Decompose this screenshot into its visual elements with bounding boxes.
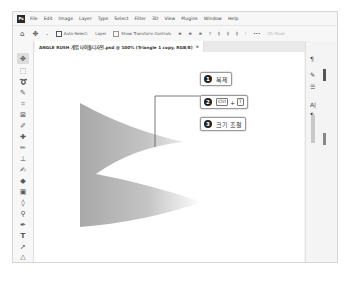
move-icon[interactable]: ✥	[32, 30, 38, 38]
home-icon[interactable]: ⌂	[20, 30, 24, 38]
document-tab-bar: ANGLE RUSH 게임 타이틀디자인.psd @ 100% (Triangl…	[13, 41, 337, 52]
brush-tool-icon[interactable]: ✏	[17, 142, 29, 153]
photoshop-logo: Ps	[17, 15, 25, 23]
eyedropper-tool-icon[interactable]: ✐	[17, 120, 29, 131]
distribute-middle-icon[interactable]: ⫼	[227, 31, 229, 36]
panel-scrollbar-lower[interactable]	[323, 133, 326, 145]
menu-window[interactable]: Window	[204, 16, 222, 21]
crop-tool-icon[interactable]: ⌗	[17, 98, 29, 109]
dodge-tool-icon[interactable]: ⚲	[17, 208, 29, 219]
menu-select[interactable]: Select	[114, 16, 128, 21]
menu-help[interactable]: Help	[228, 16, 238, 21]
eraser-tool-icon[interactable]: ◆	[17, 175, 29, 186]
align-center-icon[interactable]: ≡	[188, 31, 191, 36]
frame-tool-icon[interactable]: ⊠	[17, 109, 29, 120]
canvas-scrollbar[interactable]	[311, 115, 315, 143]
callout-step-3: 3 크기 조절	[200, 117, 246, 131]
marquee-tool-icon[interactable]: ⬚	[17, 65, 29, 76]
menu-type[interactable]: Type	[98, 16, 109, 21]
step-number-1: 1	[204, 75, 212, 83]
step-number-3: 3	[204, 120, 212, 128]
step-number-2: 2	[204, 98, 212, 106]
move-tool-icon[interactable]: ✥	[17, 53, 29, 64]
menu-plugins[interactable]: Plugins	[181, 16, 197, 21]
align-top-icon[interactable]: ⫪	[209, 31, 211, 36]
align-right-icon[interactable]: ≡	[199, 31, 202, 36]
adjustments-icon[interactable]: ☰	[310, 83, 315, 90]
type-tool-icon[interactable]: T	[17, 230, 29, 241]
options-bar: ⌂ ✥ ⌄ Auto-Select: Layer Show Transform …	[13, 25, 337, 42]
align-options-icon[interactable]: ⫶	[245, 31, 246, 36]
close-tab-icon[interactable]: ×	[196, 44, 200, 49]
paragraph-icon[interactable]: ¶	[310, 55, 314, 62]
callout-step-1: 1 복제	[200, 72, 232, 86]
menu-edit[interactable]: Edit	[44, 16, 53, 21]
triangle-shapes	[34, 52, 304, 262]
lasso-tool-icon[interactable]: ➰	[17, 76, 29, 87]
shape-tool-icon[interactable]: △	[17, 251, 29, 262]
menu-view[interactable]: View	[164, 16, 175, 21]
pen-tool-icon[interactable]: ✒	[17, 219, 29, 230]
auto-select-checkbox[interactable]: Auto-Select:	[56, 31, 89, 37]
document-title: ANGLE RUSH 게임 타이틀디자인.psd @ 100% (Triangl…	[39, 44, 193, 50]
tool-preset-chevron-icon[interactable]: ⌄	[45, 31, 48, 36]
3d-mode-label: 3D Mode	[267, 31, 285, 36]
healing-tool-icon[interactable]: ✚	[17, 131, 29, 142]
stamp-tool-icon[interactable]: ⊥	[17, 153, 29, 164]
right-panel-dock: ¶ ✎ ☰ A| ¶	[305, 41, 338, 262]
brush-settings-icon[interactable]: ✎	[310, 71, 315, 78]
menu-layer[interactable]: Layer	[79, 16, 92, 21]
gradient-tool-icon[interactable]: ▣	[17, 186, 29, 197]
menu-image[interactable]: Image	[59, 16, 73, 21]
step-3-label: 크기 조절	[216, 120, 242, 129]
menu-file[interactable]: File	[30, 16, 38, 21]
distribute-bottom-icon[interactable]: ⫼	[236, 31, 238, 36]
photoshop-window: Ps File Edit Image Layer Type Select Fil…	[12, 11, 338, 263]
menu-bar: Ps File Edit Image Layer Type Select Fil…	[13, 12, 337, 25]
quick-select-tool-icon[interactable]: ✎	[17, 87, 29, 98]
layer-select-dropdown[interactable]: Layer	[95, 31, 106, 36]
t-key: T	[237, 98, 244, 106]
document-tab[interactable]: ANGLE RUSH 게임 타이틀디자인.psd @ 100% (Triangl…	[35, 41, 204, 52]
character-icon[interactable]: A|	[310, 101, 316, 108]
panel-scrollbar[interactable]	[323, 69, 326, 81]
tools-panel: ✥ ⬚ ➰ ✎ ⌗ ⊠ ✐ ✚ ✏ ⊥ ✍ ◆ ▣ ◊ ⚲ ✒ T ➚ △	[13, 41, 34, 262]
ctrl-key: Ctrl	[216, 98, 228, 106]
history-brush-tool-icon[interactable]: ✍	[17, 164, 29, 175]
show-transform-checkbox[interactable]: Show Transform Controls	[113, 31, 171, 37]
menu-filter[interactable]: Filter	[135, 16, 146, 21]
plus-sign: +	[230, 99, 235, 106]
step-1-label: 복제	[216, 75, 228, 84]
checkbox-icon	[56, 31, 62, 37]
blur-tool-icon[interactable]: ◊	[17, 197, 29, 208]
checkbox-icon	[113, 31, 119, 37]
more-options-button[interactable]: •••	[253, 31, 260, 36]
distribute-icon[interactable]: ⫼	[218, 31, 220, 36]
callout-step-2: 2 Ctrl + T	[200, 95, 248, 109]
document-canvas[interactable]	[34, 52, 304, 262]
menu-3d[interactable]: 3D	[152, 16, 158, 21]
align-left-icon[interactable]: ≡	[178, 31, 181, 36]
